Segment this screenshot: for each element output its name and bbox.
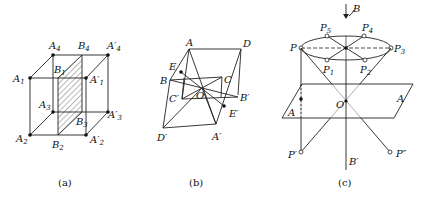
label-E: E <box>168 61 177 72</box>
label-P4: P4 <box>361 22 373 35</box>
label-O: O <box>336 99 344 110</box>
label-A: A <box>185 37 193 48</box>
label-A2: A2 <box>15 133 28 146</box>
label-P3: P3 <box>393 43 406 56</box>
label-P2: P2 <box>359 64 372 77</box>
label-B4: B4 <box>77 40 90 53</box>
label-B: B <box>159 75 167 86</box>
label-A1-prime: A′1 <box>89 74 104 87</box>
label-B: B <box>352 3 360 14</box>
label-E-prime: E′ <box>228 108 239 119</box>
label-B-prime: B′ <box>348 156 359 167</box>
label-P-prime: P′ <box>287 149 298 160</box>
label-P5: P5 <box>319 22 332 35</box>
label-C-prime: C′ <box>169 93 180 104</box>
label-B-prime: B′ <box>239 92 250 103</box>
figure-canvas: A4 B4 A′4 A1 B1 A′1 A3 A′3 B3 A2 B2 A′2 … <box>0 0 424 202</box>
label-A4: A4 <box>48 40 61 53</box>
label-D: D <box>242 38 251 49</box>
caption-c: (c) <box>338 177 352 188</box>
panel-c-cone: B P5 P4 P P3 P1 P2 A O A <box>282 3 413 188</box>
label-D-prime: D′ <box>156 132 168 143</box>
label-A3-prime: A′3 <box>107 109 123 122</box>
label-C: C <box>224 74 232 85</box>
panel-b-solid: A D E B C C′ O B′ E′ D′ A′ (b) <box>156 37 251 188</box>
label-P-double-prime: P″ <box>395 148 407 159</box>
label-B1: B1 <box>53 64 66 77</box>
label-A3: A3 <box>38 99 51 112</box>
label-P: P <box>289 42 297 53</box>
label-A-left: A <box>287 107 295 118</box>
label-A-right: A <box>396 93 404 104</box>
label-A1: A1 <box>12 73 25 86</box>
label-O: O <box>196 90 204 101</box>
label-A-prime: A′ <box>211 131 222 142</box>
caption-b: (b) <box>189 177 203 188</box>
label-A2-prime: A′2 <box>89 134 105 147</box>
label-A4-prime: A′4 <box>106 40 121 53</box>
caption-a: (a) <box>58 177 72 188</box>
panel-a-cube: A4 B4 A′4 A1 B1 A′1 A3 A′3 B3 A2 B2 A′2 … <box>12 40 123 188</box>
label-B2: B2 <box>51 139 64 152</box>
